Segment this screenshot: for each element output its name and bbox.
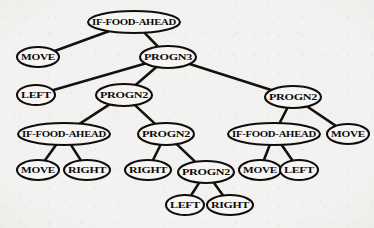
tree-edge [307,107,336,126]
tree-node-right[interactable]: RIGHT [125,160,171,180]
tree-node-move[interactable]: MOVE [17,160,59,180]
node-label: IF-FOOD-AHEAD [22,130,107,139]
tree-node-if-food-ahead[interactable]: IF-FOOD-AHEAD [18,123,110,145]
tree-node-move[interactable]: MOVE [327,124,369,144]
tree-edge [135,105,155,124]
node-label: MOVE [21,166,55,175]
node-label: LEFT [21,91,51,100]
node-label: PROGN2 [182,168,231,177]
tree-edge [191,183,199,196]
tree-edge [190,64,272,90]
node-label: MOVE [21,53,55,62]
node-label: PROGN3 [144,53,193,62]
node-label: MOVE [243,166,277,175]
tree-node-if-food-ahead[interactable]: IF-FOOD-AHEAD [228,123,320,145]
parse-tree-diagram: IF-FOOD-AHEADMOVEPROGN3LEFTPROGN2PROGN2I… [0,0,374,228]
node-label: PROGN2 [100,91,149,100]
tree-node-right[interactable]: RIGHT [64,160,110,180]
tree-edge [136,67,157,85]
tree-edge [55,31,109,51]
tree-node-right[interactable]: RIGHT [207,195,253,215]
tree-node-left[interactable]: LEFT [280,160,318,180]
tree-node-left[interactable]: LEFT [17,85,55,105]
node-label: IF-FOOD-AHEAD [92,18,177,27]
tree-edge [177,144,196,162]
tree-edge [71,145,81,160]
node-label: LEFT [170,201,200,210]
node-label: RIGHT [211,201,249,210]
node-label: RIGHT [68,166,106,175]
tree-node-progn2[interactable]: PROGN2 [96,84,152,106]
tree-canvas: IF-FOOD-AHEADMOVEPROGN3LEFTPROGN2PROGN2I… [0,0,374,228]
tree-edge [214,183,223,196]
tree-node-progn3[interactable]: PROGN3 [140,46,196,68]
tree-node-move[interactable]: MOVE [17,47,59,67]
node-label: PROGN2 [269,93,318,102]
node-label: MOVE [331,130,365,139]
tree-node-progn2[interactable]: PROGN2 [265,86,321,108]
tree-edge [282,145,293,161]
tree-node-left[interactable]: LEFT [166,195,204,215]
tree-edge [153,145,161,160]
tree-edge [264,145,270,160]
tree-edge [80,104,110,123]
tree-node-move[interactable]: MOVE [239,160,281,180]
tree-node-if-food-ahead[interactable]: IF-FOOD-AHEAD [88,11,180,33]
node-label: RIGHT [129,166,167,175]
node-label: PROGN2 [142,130,191,139]
tree-edge [45,145,56,161]
node-label: LEFT [284,166,314,175]
tree-node-progn2[interactable]: PROGN2 [178,161,234,183]
tree-edge [280,108,288,123]
tree-node-progn2[interactable]: PROGN2 [138,123,194,145]
tree-edge [144,33,158,47]
node-label: IF-FOOD-AHEAD [232,130,317,139]
